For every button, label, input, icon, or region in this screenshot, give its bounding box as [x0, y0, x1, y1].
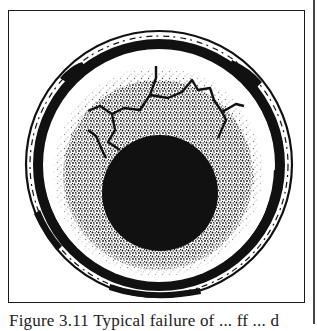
caption-text: Typical failure of ... ff ... d	[93, 311, 279, 330]
dark-core	[102, 135, 218, 251]
figure-number: Figure 3.11	[9, 311, 89, 330]
figure-caption: Figure 3.11 Typical failure of ... ff ..…	[9, 311, 309, 331]
cross-section-illustration	[0, 0, 317, 310]
